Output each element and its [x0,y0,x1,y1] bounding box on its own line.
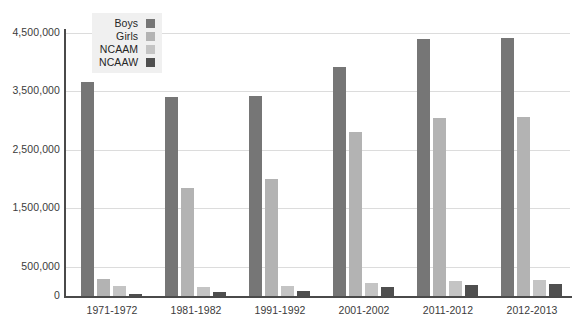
bar-ncaaw [549,284,562,296]
bar-boys [333,67,346,296]
legend-item-ncaaw[interactable]: NCAAW [99,56,155,68]
bar-group [333,33,394,296]
bar-ncaam [365,283,378,296]
y-axis-tick-label: 3,500,000 [0,84,60,96]
bar-boys [417,39,430,296]
bar-boys [249,96,262,296]
legend-item-label: Boys [114,17,138,29]
bar-girls [265,179,278,296]
y-axis-line [64,29,66,298]
bar-ncaam [449,281,462,296]
bar-ncaam [533,280,546,296]
x-axis-tick-label: 1991-1992 [238,304,322,316]
legend-item-label: NCAAW [99,56,138,68]
bar-boys [501,38,514,296]
bar-ncaam [113,286,126,296]
bar-ncaaw [465,285,478,296]
x-axis-tick-label: 1981-1982 [154,304,238,316]
x-axis-tick-label: 1971-1972 [70,304,154,316]
bar-boys [81,82,94,296]
legend-item-label: NCAAM [100,43,138,55]
bar-girls [349,132,362,296]
bar-girls [433,118,446,296]
x-axis-tick-label: 2001-2002 [322,304,406,316]
legend-swatch-icon [146,19,155,28]
bar-chart: 4,500,0003,500,0002,500,0001,500,000500,… [0,0,579,330]
bar-group [417,33,478,296]
bar-boys [165,97,178,296]
y-axis-tick-label: 1,500,000 [0,201,60,213]
bar-girls [181,188,194,296]
legend-swatch-icon [146,58,155,67]
legend-item-boys[interactable]: Boys [99,17,155,29]
bar-ncaam [281,286,294,296]
y-axis-tick-label: 0 [0,289,60,301]
x-axis-line [64,296,572,298]
x-axis-tick-label: 2012-2013 [490,304,574,316]
legend-swatch-icon [146,45,155,54]
x-axis-tick-label: 2011-2012 [406,304,490,316]
y-axis-tick-label: 500,000 [0,260,60,272]
bar-group [501,33,562,296]
y-axis-tick-label: 4,500,000 [0,26,60,38]
legend-item-ncaam[interactable]: NCAAM [99,43,155,55]
bar-girls [97,279,110,296]
bar-girls [517,117,530,296]
chart-legend: BoysGirlsNCAAMNCAAW [92,13,162,73]
bar-ncaaw [381,287,394,296]
legend-swatch-icon [146,32,155,41]
bar-ncaam [197,287,210,296]
legend-item-label: Girls [116,30,138,42]
y-axis-tick-label: 2,500,000 [0,143,60,155]
legend-item-girls[interactable]: Girls [99,30,155,42]
bar-group [249,33,310,296]
bar-group [165,33,226,296]
